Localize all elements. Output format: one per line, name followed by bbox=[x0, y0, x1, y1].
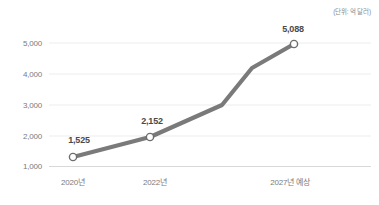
data-label-2020: 1,525 bbox=[49, 135, 109, 145]
x-tick-label-2022: 2022년 bbox=[115, 176, 195, 187]
y-tick-label-1000: 1,000 bbox=[6, 162, 42, 171]
y-tick-label-4000: 4,000 bbox=[6, 70, 42, 79]
data-point-marker-2022[interactable] bbox=[146, 133, 153, 140]
line-chart-figure: (단위: 억 달러) 5,000 4,000 3,000 bbox=[0, 0, 379, 205]
data-point-marker-2027[interactable] bbox=[290, 40, 297, 47]
plot-area: 5,000 4,000 3,000 2,000 1,000 2020년 2022… bbox=[0, 0, 379, 205]
data-label-2027: 5,088 bbox=[263, 24, 323, 34]
x-tick-label-2020: 2020년 bbox=[33, 176, 113, 187]
data-label-2022: 2,152 bbox=[122, 116, 182, 126]
y-tick-label-5000: 5,000 bbox=[6, 39, 42, 48]
y-tick-label-2000: 2,000 bbox=[6, 132, 42, 141]
data-point-marker-2020[interactable] bbox=[69, 153, 76, 160]
gridlines bbox=[49, 43, 371, 136]
x-tick-label-2027: 2027년 예상 bbox=[250, 176, 330, 187]
y-tick-label-3000: 3,000 bbox=[6, 101, 42, 110]
